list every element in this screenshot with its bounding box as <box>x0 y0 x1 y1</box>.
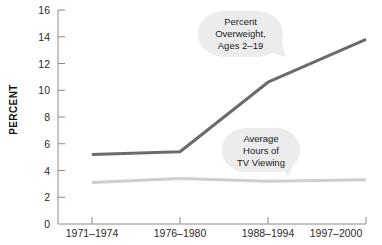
x-axis-ticks <box>92 217 366 224</box>
y-tick-label-6: 6 <box>28 139 50 150</box>
series-line-tv-viewing <box>92 179 366 183</box>
y-axis-ticks <box>58 10 65 197</box>
y-tick-label-14: 14 <box>28 32 50 43</box>
chart-container: PERCENT 16 14 12 10 8 6 4 2 0 1971–1974 … <box>0 0 382 245</box>
x-tick-label-1971-1974: 1971–1974 <box>47 228 137 239</box>
annotation-line-3: TV Viewing <box>230 157 292 169</box>
y-tick-label-4: 4 <box>28 166 50 177</box>
y-axis-title: PERCENT <box>8 75 19 145</box>
y-tick-label-2: 2 <box>28 192 50 203</box>
y-tick-label-10: 10 <box>28 85 50 96</box>
y-tick-label-12: 12 <box>28 59 50 70</box>
y-tick-label-8: 8 <box>28 112 50 123</box>
annotation-line-1: Average <box>230 133 292 145</box>
annotation-tv-viewing: Average Hours of TV Viewing <box>222 128 300 172</box>
annotation-line-2: Overweight, <box>206 28 275 40</box>
chart-plot-area <box>0 0 382 245</box>
y-tick-label-16: 16 <box>28 5 50 16</box>
x-tick-label-1976-1980: 1976–1980 <box>135 228 225 239</box>
annotation-line-2: Hours of <box>230 145 292 157</box>
annotation-percent-overweight: Percent Overweight, Ages 2–19 <box>198 11 283 57</box>
annotation-line-1: Percent <box>206 16 275 28</box>
x-tick-label-1997-2000: 1997–2000 <box>291 228 381 239</box>
annotation-line-3: Ages 2–19 <box>206 40 275 52</box>
